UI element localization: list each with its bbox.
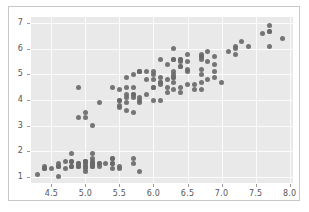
scatter-point bbox=[171, 80, 176, 85]
scatter-point bbox=[205, 77, 210, 82]
scatter-point bbox=[131, 72, 136, 77]
scatter-point bbox=[267, 29, 272, 34]
scatter-point bbox=[131, 95, 136, 100]
x-axis-tick-mark bbox=[153, 184, 154, 187]
scatter-point bbox=[151, 98, 156, 103]
x-axis-tick-label: 7.0 bbox=[211, 189, 233, 198]
scatter-point bbox=[117, 166, 122, 171]
scatter-point bbox=[124, 100, 129, 105]
gridline-horizontal bbox=[31, 49, 293, 50]
y-axis-tick-label: 2 bbox=[9, 146, 23, 155]
scatter-plot: 4.55.05.56.06.57.07.58.01234567 bbox=[9, 7, 301, 202]
x-axis-tick-mark bbox=[119, 184, 120, 187]
x-axis-tick-label: 6.5 bbox=[177, 189, 199, 198]
scatter-point bbox=[49, 166, 54, 171]
scatter-point bbox=[239, 39, 244, 44]
scatter-point bbox=[63, 166, 68, 171]
scatter-point bbox=[144, 92, 149, 97]
scatter-point bbox=[226, 49, 231, 54]
scatter-point bbox=[199, 54, 204, 59]
y-axis-tick-label: 7 bbox=[9, 18, 23, 27]
scatter-point bbox=[280, 36, 285, 41]
y-axis-tick-label: 1 bbox=[9, 172, 23, 181]
scatter-point bbox=[178, 85, 183, 90]
scatter-point bbox=[117, 98, 122, 103]
x-axis-tick-label: 5.0 bbox=[74, 189, 96, 198]
y-axis-tick-mark bbox=[27, 100, 30, 101]
scatter-point bbox=[185, 82, 190, 87]
x-axis-tick-mark bbox=[290, 184, 291, 187]
scatter-point bbox=[76, 164, 81, 169]
y-axis-tick-label: 5 bbox=[9, 69, 23, 78]
y-axis-tick-label: 6 bbox=[9, 44, 23, 53]
scatter-point bbox=[165, 85, 170, 90]
scatter-point bbox=[158, 57, 163, 62]
x-axis-tick-mark bbox=[85, 184, 86, 187]
scatter-point bbox=[178, 64, 183, 69]
scatter-point bbox=[90, 123, 95, 128]
scatter-point bbox=[171, 87, 176, 92]
scatter-point bbox=[131, 85, 136, 90]
scatter-point bbox=[131, 110, 136, 115]
scatter-point bbox=[205, 59, 210, 64]
scatter-point bbox=[76, 85, 81, 90]
y-axis-tick-label: 4 bbox=[9, 95, 23, 104]
scatter-point bbox=[117, 105, 122, 110]
scatter-point bbox=[205, 49, 210, 54]
scatter-point bbox=[219, 80, 224, 85]
scatter-point bbox=[178, 59, 183, 64]
scatter-point bbox=[76, 115, 81, 120]
scatter-point bbox=[171, 46, 176, 51]
scatter-point bbox=[267, 23, 272, 28]
scatter-point bbox=[199, 67, 204, 72]
scatter-point bbox=[69, 151, 74, 156]
plot-panel bbox=[31, 17, 293, 183]
scatter-point bbox=[117, 87, 122, 92]
x-axis-tick-label: 6.0 bbox=[142, 189, 164, 198]
scatter-point bbox=[233, 52, 238, 57]
x-axis-tick-label: 5.5 bbox=[108, 189, 130, 198]
scatter-point bbox=[212, 62, 217, 67]
scatter-point bbox=[137, 169, 142, 174]
x-axis-tick-mark bbox=[188, 184, 189, 187]
scatter-point bbox=[97, 100, 102, 105]
scatter-point bbox=[192, 87, 197, 92]
scatter-point bbox=[56, 174, 61, 179]
scatter-point bbox=[137, 98, 142, 103]
scatter-point bbox=[56, 164, 61, 169]
y-axis-tick-mark bbox=[27, 177, 30, 178]
y-axis-tick-mark bbox=[27, 49, 30, 50]
scatter-point bbox=[69, 164, 74, 169]
scatter-point bbox=[110, 161, 115, 166]
scatter-point bbox=[144, 77, 149, 82]
scatter-point bbox=[131, 156, 136, 161]
scatter-point bbox=[103, 161, 108, 166]
scatter-point bbox=[124, 108, 129, 113]
scatter-point bbox=[185, 67, 190, 72]
x-axis-tick-mark bbox=[256, 184, 257, 187]
scatter-point bbox=[260, 31, 265, 36]
x-axis-tick-label: 7.5 bbox=[245, 189, 267, 198]
scatter-point bbox=[97, 161, 102, 166]
scatter-point bbox=[199, 87, 204, 92]
scatter-point bbox=[83, 164, 88, 169]
x-axis-tick-mark bbox=[51, 184, 52, 187]
y-axis-tick-mark bbox=[27, 23, 30, 24]
scatter-point bbox=[110, 85, 115, 90]
scatter-point bbox=[185, 52, 190, 57]
scatter-point bbox=[199, 72, 204, 77]
scatter-point bbox=[90, 151, 95, 156]
scatter-point bbox=[199, 80, 204, 85]
scatter-point bbox=[151, 85, 156, 90]
scatter-point bbox=[212, 75, 217, 80]
scatter-point bbox=[110, 166, 115, 171]
scatter-point bbox=[158, 82, 163, 87]
gridline-horizontal bbox=[31, 126, 293, 127]
y-axis-tick-mark bbox=[27, 151, 30, 152]
scatter-point bbox=[185, 59, 190, 64]
scatter-point bbox=[212, 54, 217, 59]
figure-card: 4.55.05.56.06.57.07.58.01234567 bbox=[8, 6, 300, 201]
scatter-point bbox=[42, 166, 47, 171]
x-axis-tick-label: 8.0 bbox=[279, 189, 301, 198]
scatter-point bbox=[83, 115, 88, 120]
